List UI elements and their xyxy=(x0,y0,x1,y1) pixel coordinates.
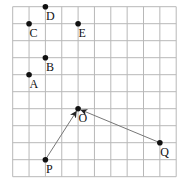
vector-arrow-p-to-o xyxy=(45,112,76,160)
point-label: E xyxy=(79,26,86,40)
point-label: A xyxy=(30,77,39,91)
points: DCEBAOQP xyxy=(26,4,169,176)
grid-diagram: DCEBAOQP xyxy=(0,0,188,186)
point-label: C xyxy=(30,26,38,40)
arrows xyxy=(45,110,159,160)
point-label: O xyxy=(79,111,88,125)
vector-arrow-q-to-o xyxy=(81,110,160,143)
point-label: Q xyxy=(160,145,169,159)
point-label: B xyxy=(46,60,54,74)
point-label: D xyxy=(46,9,55,23)
point-label: P xyxy=(46,162,53,176)
